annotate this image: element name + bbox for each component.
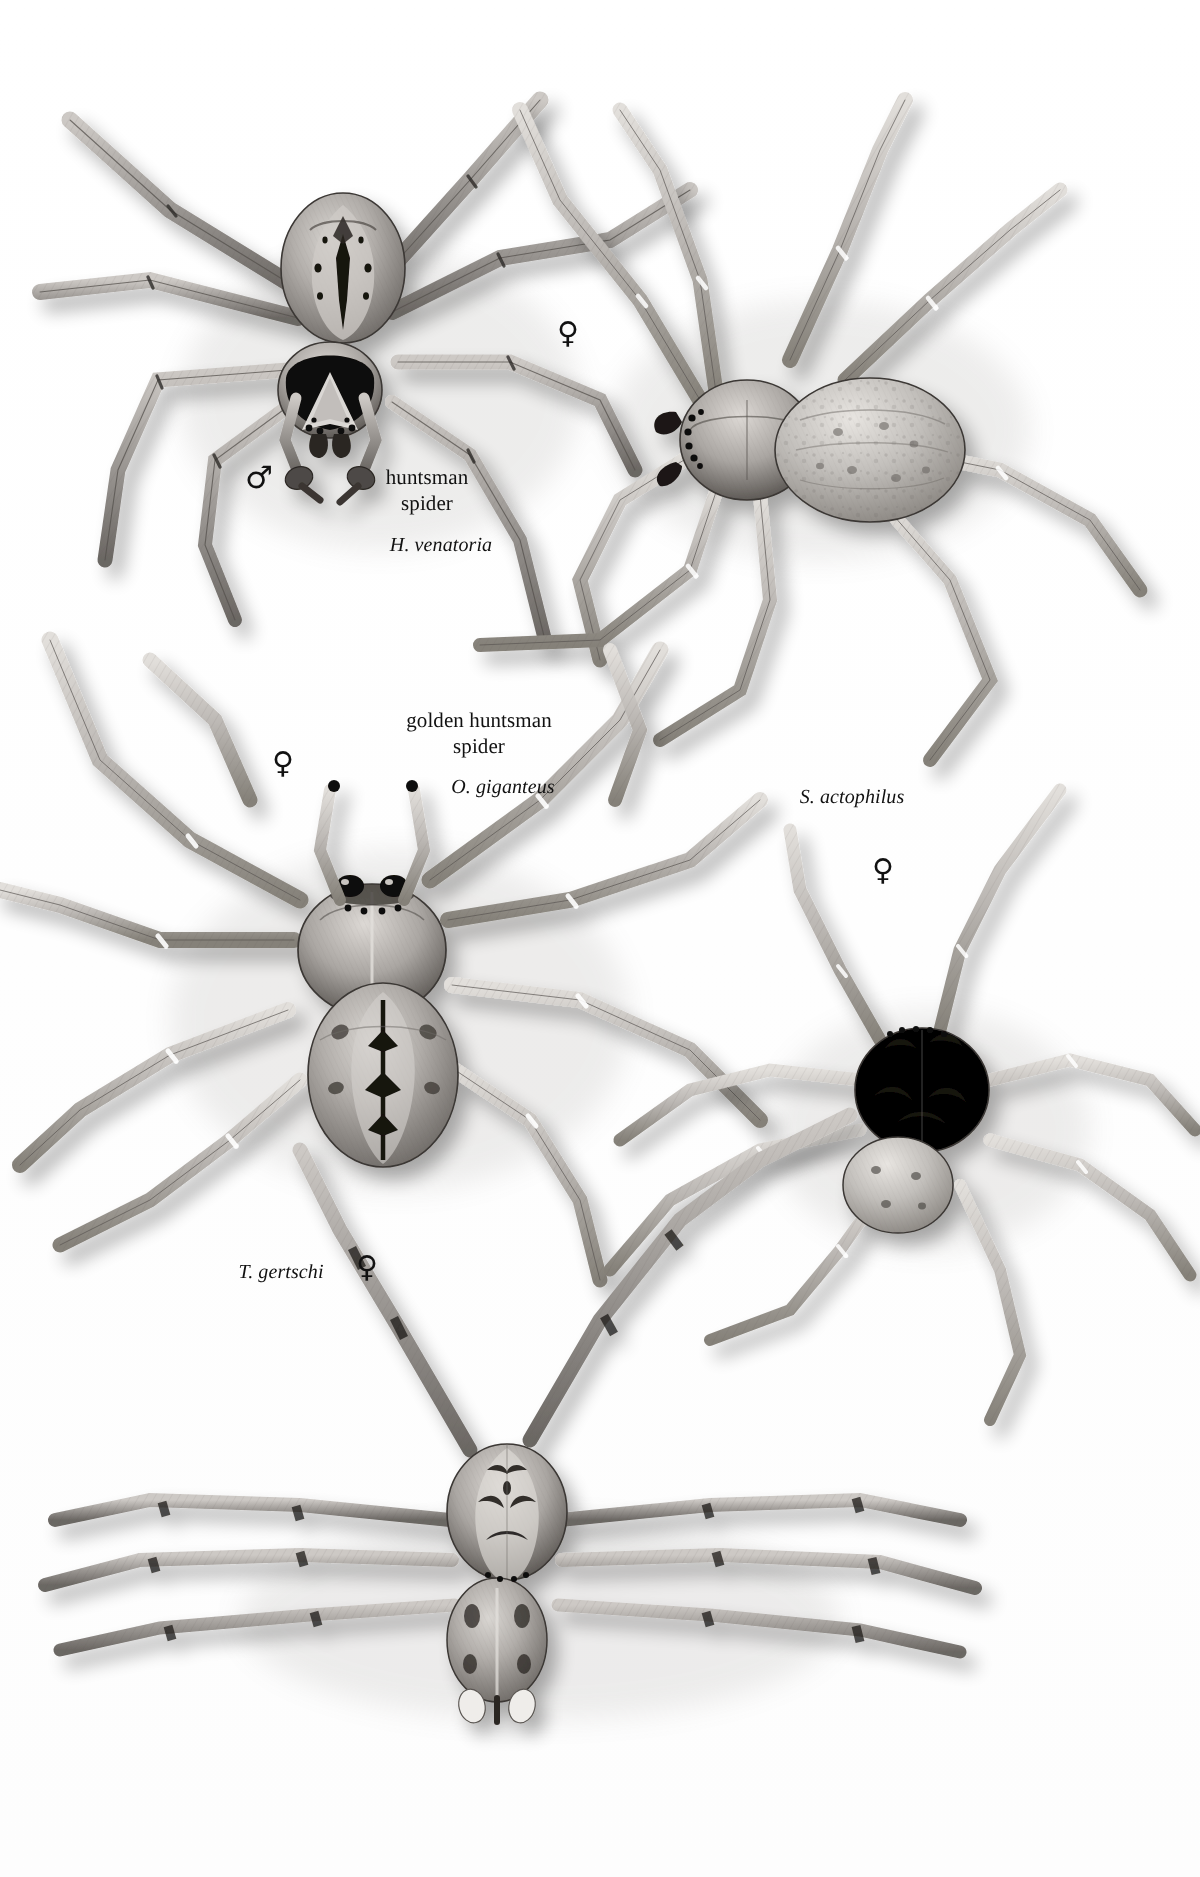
golden-huntsman-common-line2: spider xyxy=(393,734,565,760)
venus-icon-t-gertschi-female: ♀ xyxy=(356,1252,378,1282)
label-golden-huntsman-scientific-name: O. giganteus xyxy=(441,775,565,799)
huntsman-common-line2: spider xyxy=(367,491,487,517)
mars-icon-huntsman-male: ♂ xyxy=(245,462,273,493)
huntsman-common-line1: huntsman xyxy=(367,465,487,491)
spider-illustrations xyxy=(0,0,1200,1877)
venus-icon-huntsman-female: ♀ xyxy=(557,318,579,348)
label-huntsman-scientific-name: H. venatoria xyxy=(381,533,501,557)
venus-icon-golden-huntsman-female: ♀ xyxy=(272,748,294,778)
label-huntsman-common-name: huntsman spider xyxy=(367,465,487,516)
illustration-plate: ♂ ♀ huntsman spider H. venatoria ♀ golde… xyxy=(0,0,1200,1877)
label-golden-huntsman-common-name: golden huntsman spider xyxy=(393,708,565,759)
label-selenops-scientific-name: S. actophilus xyxy=(782,785,922,809)
golden-huntsman-common-line1: golden huntsman xyxy=(393,708,565,734)
label-t-gertschi-scientific-name: T. gertschi xyxy=(221,1260,341,1284)
venus-icon-selenops-female: ♀ xyxy=(872,855,894,885)
